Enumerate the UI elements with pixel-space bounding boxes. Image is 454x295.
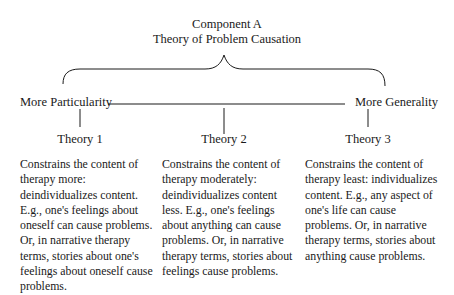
theory-2-description: Constrains the content of therapy modera… <box>162 157 297 279</box>
theory-3-description: Constrains the content of therapy least:… <box>305 157 440 264</box>
right-end-label: More Generality <box>355 95 438 110</box>
component-subtitle: Theory of Problem Causation <box>0 32 454 47</box>
theory-2-label: Theory 2 <box>184 132 264 147</box>
left-end-label: More Particularity <box>20 95 112 110</box>
curly-brace <box>63 55 385 86</box>
theory-3-label: Theory 3 <box>328 132 408 147</box>
theory-1-label: Theory 1 <box>40 132 120 147</box>
component-title: Component A <box>0 17 454 32</box>
theory-1-description: Constrains the content of therapy more: … <box>20 157 155 295</box>
